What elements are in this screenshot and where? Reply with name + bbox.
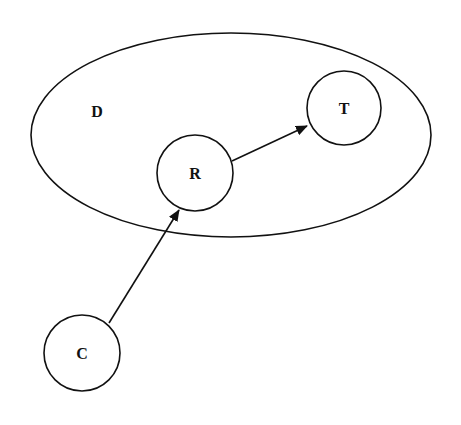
container-D: D [31, 33, 431, 237]
container-label-D: D [91, 103, 103, 120]
node-label-C: C [76, 345, 88, 362]
node-label-R: R [189, 165, 201, 182]
node-T: T [307, 71, 381, 145]
container-ellipse-D [31, 33, 431, 237]
diagram-canvas: D T R C [0, 0, 461, 425]
node-C: C [44, 315, 120, 391]
edge-R-to-T [232, 126, 307, 161]
node-label-T: T [339, 100, 350, 117]
node-R: R [157, 135, 233, 211]
